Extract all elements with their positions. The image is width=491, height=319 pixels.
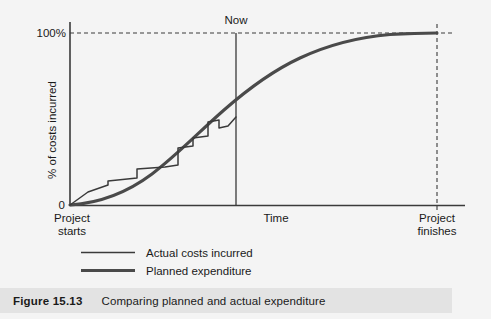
chart-plot-area: 100% 0 % of costs incurred Now Time Proj…: [0, 0, 491, 285]
y-axis-title: % of costs incurred: [46, 81, 58, 179]
x-end-label-line1: Project: [419, 212, 456, 224]
x-end-label-line2: finishes: [418, 225, 457, 237]
figure-caption-text: Comparing planned and actual expenditure: [102, 295, 326, 307]
x-start-label-line2: starts: [58, 225, 86, 237]
actual-costs-line: [70, 117, 236, 205]
x-axis-title: Time: [263, 212, 288, 224]
x-start-label-line1: Project: [54, 212, 91, 224]
figure-caption-bar: Figure 15.13 Comparing planned and actua…: [0, 288, 452, 313]
legend-label-actual: Actual costs incurred: [146, 247, 253, 259]
now-label: Now: [224, 14, 248, 26]
legend-label-planned: Planned expenditure: [146, 265, 252, 277]
figure-caption-number: Figure 15.13: [13, 295, 83, 307]
y-tick-label-0: 0: [59, 199, 65, 211]
y-tick-label-100: 100%: [37, 27, 66, 39]
figure-container: 100% 0 % of costs incurred Now Time Proj…: [0, 0, 491, 319]
